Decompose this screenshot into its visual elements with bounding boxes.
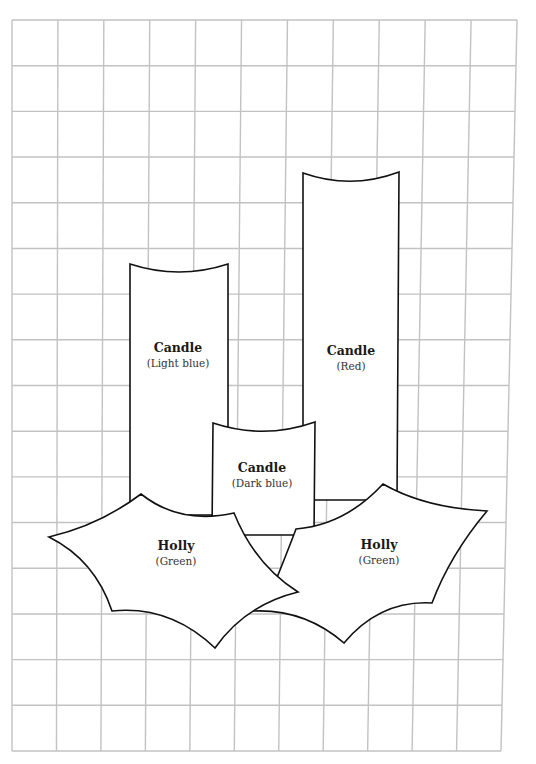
candle-light-blue-color: (Light blue) bbox=[147, 358, 210, 369]
holly-right-title: Holly bbox=[359, 539, 400, 552]
holly-left-title: Holly bbox=[156, 540, 197, 553]
holly-left-color: (Green) bbox=[156, 556, 197, 567]
candle-red-outline bbox=[303, 172, 399, 500]
holly-left-label: Holly (Green) bbox=[156, 540, 197, 566]
pattern-sheet: Candle (Red) Candle (Light blue) Candle … bbox=[0, 0, 536, 764]
candle-red-label: Candle (Red) bbox=[327, 345, 376, 371]
candle-red-color: (Red) bbox=[327, 361, 376, 372]
holly-right-label: Holly (Green) bbox=[359, 539, 400, 565]
grid-lines bbox=[12, 20, 517, 751]
candle-dark-blue-title: Candle bbox=[232, 462, 293, 475]
candle-light-blue-title: Candle bbox=[147, 342, 210, 355]
candle-dark-blue-color: (Dark blue) bbox=[232, 478, 293, 489]
candle-red-title: Candle bbox=[327, 345, 376, 358]
candle-dark-blue-label: Candle (Dark blue) bbox=[232, 462, 293, 488]
candle-light-blue-label: Candle (Light blue) bbox=[147, 342, 210, 368]
pattern-grid bbox=[0, 0, 536, 764]
holly-right-color: (Green) bbox=[359, 555, 400, 566]
